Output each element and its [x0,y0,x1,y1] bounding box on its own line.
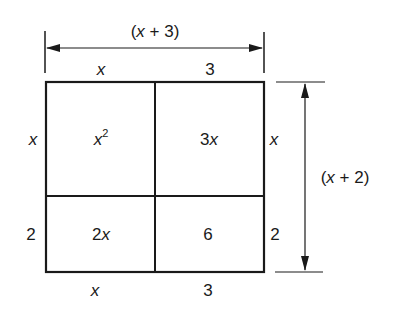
arrow-down-icon [301,256,309,271]
arrow-left-icon [46,44,60,52]
bottom-segment-label-x: x [90,281,100,300]
right-segment-label-2: 2 [270,225,279,244]
left-segment-label-2: 2 [26,225,35,244]
cell-top-right: 3x [200,130,218,149]
cell-bottom-right: 6 [203,225,212,244]
right-segment-label-x: x [269,130,279,149]
top-dimension-label: (x + 3) [131,22,180,41]
top-segment-label-x: x [96,60,106,79]
area-model-diagram: (x + 3) x 3 x2 3x 2x 6 x 2 x 2 x 3 (x + … [0,0,394,314]
arrow-up-icon [301,83,309,98]
left-segment-label-x: x [28,130,38,149]
bottom-segment-label-3: 3 [203,281,212,300]
right-dimension-label: (x + 2) [321,168,370,187]
cell-top-left: x2 [93,127,109,149]
top-segment-label-3: 3 [205,60,214,79]
cell-bottom-left: 2x [92,225,110,244]
arrow-right-icon [249,44,263,52]
